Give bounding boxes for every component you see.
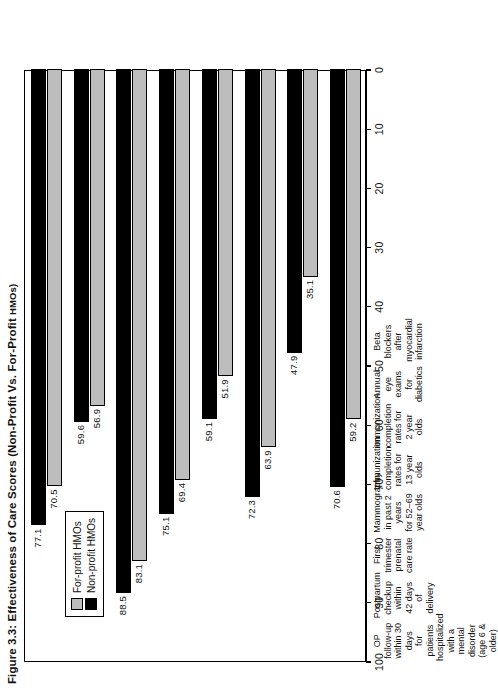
bar-value-label: 59.1 bbox=[203, 422, 214, 441]
axis-tick bbox=[366, 484, 371, 485]
bar-for-profit bbox=[90, 69, 105, 406]
plot-area: For-profit HMOs Non-profit HMOs 70.659.2… bbox=[24, 70, 366, 662]
category-label: Beta blockers after myocardial infarctio… bbox=[372, 321, 425, 362]
bar-for-profit bbox=[303, 69, 318, 277]
legend-swatch-for-profit bbox=[71, 598, 83, 610]
axis-tick bbox=[366, 543, 371, 544]
bar-value-label: 70.5 bbox=[48, 489, 59, 508]
category-label: Postpartum checkup within 42 days of del… bbox=[372, 578, 435, 619]
legend-label-for-profit: For-profit HMOs bbox=[72, 521, 83, 593]
bar-value-label: 63.9 bbox=[262, 450, 273, 469]
axis-tick-label: 20 bbox=[373, 182, 385, 194]
bar-non-profit bbox=[245, 69, 260, 497]
bar-value-label: 83.1 bbox=[133, 564, 144, 583]
legend: For-profit HMOs Non-profit HMOs bbox=[65, 511, 104, 617]
axis-tick bbox=[366, 602, 371, 603]
bar-value-label: 47.9 bbox=[288, 356, 299, 375]
axis-tick bbox=[366, 661, 371, 662]
axis-tick bbox=[366, 129, 371, 130]
axis-tick-label: 30 bbox=[373, 242, 385, 254]
bar-value-label: 51.9 bbox=[219, 379, 230, 398]
bar-non-profit bbox=[74, 69, 89, 422]
bar-non-profit bbox=[287, 69, 302, 353]
category-label: Mammography in past 2 years for 52–69 ye… bbox=[372, 492, 425, 533]
figure-title-smallcaps: HMOs) bbox=[7, 284, 18, 315]
category-label: OP follow-up within 30 days for patients… bbox=[372, 620, 498, 661]
bar-for-profit bbox=[47, 69, 62, 486]
bar-value-label: 59.2 bbox=[347, 422, 358, 441]
bar-for-profit bbox=[346, 69, 361, 419]
bar-non-profit bbox=[31, 69, 46, 525]
axis-tick bbox=[366, 247, 371, 248]
bar-value-label: 70.6 bbox=[331, 490, 342, 509]
bar-value-label: 77.1 bbox=[32, 528, 43, 547]
axis-tick-label: 0 bbox=[373, 67, 385, 73]
figure-title-main: Figure 3.3: Effectiveness of Care Scores… bbox=[6, 315, 18, 684]
bar-non-profit bbox=[159, 69, 174, 514]
bar-non-profit bbox=[330, 69, 345, 487]
legend-swatch-non-profit bbox=[85, 598, 97, 610]
bar-value-label: 69.4 bbox=[176, 483, 187, 502]
bar-value-label: 88.5 bbox=[117, 596, 128, 615]
axis-tick bbox=[366, 69, 371, 70]
axis-tick bbox=[366, 306, 371, 307]
axis-tick bbox=[366, 365, 371, 366]
bar-value-label: 59.6 bbox=[75, 425, 86, 444]
bar-for-profit bbox=[175, 69, 190, 480]
bar-non-profit bbox=[202, 69, 217, 419]
bar-for-profit bbox=[132, 69, 147, 561]
bar-value-label: 75.1 bbox=[160, 517, 171, 536]
legend-item-non-profit: Non-profit HMOs bbox=[84, 518, 98, 610]
axis-tick bbox=[366, 425, 371, 426]
bar-value-label: 72.3 bbox=[246, 500, 257, 519]
bar-value-label: 56.9 bbox=[91, 409, 102, 428]
axis-tick bbox=[366, 188, 371, 189]
bar-value-label: 35.1 bbox=[304, 280, 315, 299]
legend-label-non-profit: Non-profit HMOs bbox=[86, 518, 97, 593]
axis-tick-label: 40 bbox=[373, 301, 385, 313]
figure-title: Figure 3.3: Effectiveness of Care Scores… bbox=[6, 284, 18, 684]
bar-for-profit bbox=[261, 69, 276, 447]
bar-non-profit bbox=[116, 69, 131, 593]
category-label: First trimester prenatal care rate bbox=[372, 535, 414, 576]
legend-item-for-profit: For-profit HMOs bbox=[70, 518, 84, 610]
bar-for-profit bbox=[218, 69, 233, 376]
axis-tick-label: 10 bbox=[373, 123, 385, 135]
